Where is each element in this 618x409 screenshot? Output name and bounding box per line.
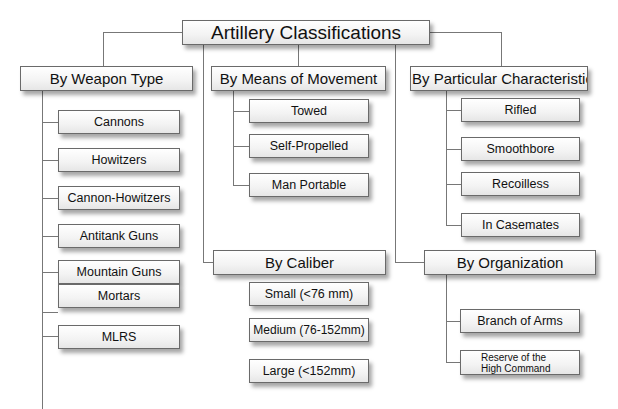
connector — [395, 262, 424, 263]
connector — [446, 274, 447, 362]
category-weapon-type: By Weapon Type — [20, 66, 193, 91]
node-howitzers: Howitzers — [58, 148, 180, 172]
connector — [42, 122, 58, 123]
category-movement: By Means of Movement — [211, 66, 386, 91]
node-large-caliber: Large (<152mm) — [249, 359, 369, 383]
connector — [42, 91, 43, 409]
connector — [446, 321, 460, 322]
node-reserve-high-command: Reserve of the High Command — [460, 350, 580, 375]
connector — [446, 149, 461, 150]
connector — [501, 32, 502, 66]
connector — [203, 44, 204, 262]
connector — [446, 91, 447, 225]
node-smoothbore: Smoothbore — [461, 137, 580, 161]
node-mortars: Mortars — [58, 284, 180, 308]
connector — [446, 225, 461, 226]
connector — [103, 32, 183, 33]
connector — [42, 236, 58, 237]
connector — [233, 185, 249, 186]
connector — [42, 198, 58, 199]
connector — [446, 110, 461, 111]
root-node: Artillery Classifications — [182, 20, 430, 45]
node-man-portable: Man Portable — [249, 173, 369, 197]
connector — [42, 336, 58, 337]
connector — [203, 262, 213, 263]
connector — [42, 160, 58, 161]
connector — [446, 184, 461, 185]
connector — [298, 44, 299, 66]
node-antitank-guns: Antitank Guns — [58, 224, 180, 248]
connector — [430, 32, 501, 33]
connector — [42, 272, 58, 273]
node-cannon-howitzers: Cannon-Howitzers — [58, 186, 180, 210]
category-organization: By Organization — [424, 250, 596, 275]
node-medium-caliber: Medium (76-152mm) — [249, 318, 369, 342]
connector — [233, 91, 234, 185]
node-cannons: Cannons — [58, 110, 180, 134]
connector — [395, 44, 396, 262]
node-small-caliber: Small (<76 mm) — [249, 282, 369, 306]
node-recoilless: Recoilless — [461, 172, 580, 196]
connector — [42, 312, 58, 313]
connector — [233, 111, 249, 112]
node-mountain-guns: Mountain Guns — [58, 260, 180, 284]
connector — [103, 32, 104, 66]
node-branch-of-arms: Branch of Arms — [460, 309, 580, 333]
connector — [446, 362, 460, 363]
category-caliber: By Caliber — [213, 250, 386, 275]
node-towed: Towed — [249, 99, 369, 123]
node-self-propelled: Self-Propelled — [249, 134, 369, 158]
node-in-casemates: In Casemates — [461, 213, 580, 237]
node-mlrs: MLRS — [58, 325, 180, 349]
node-rifled: Rifled — [461, 98, 580, 122]
category-characteristic: By Particular Characteristic — [410, 66, 588, 91]
connector — [233, 146, 249, 147]
